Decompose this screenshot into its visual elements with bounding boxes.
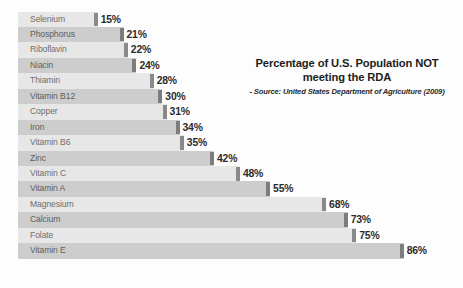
value-label: 55% xyxy=(273,181,293,196)
category-label: Vitamin E xyxy=(30,243,66,258)
bar xyxy=(18,228,356,243)
bar-end-cap xyxy=(344,213,348,227)
chart-row: Selenium15% xyxy=(0,12,463,27)
bar-end-cap xyxy=(150,74,154,88)
bar-end-cap xyxy=(158,90,162,104)
category-label: Phosphorus xyxy=(30,27,75,42)
bar-end-cap xyxy=(176,121,180,135)
chart-title-block: Percentage of U.S. Population NOT meetin… xyxy=(233,56,461,96)
category-label: Vitamin A xyxy=(30,181,65,196)
bar-end-cap xyxy=(322,198,326,212)
chart-row: Phosphorus21% xyxy=(0,27,463,42)
bar xyxy=(18,151,214,166)
value-label: 24% xyxy=(139,58,159,73)
category-label: Copper xyxy=(30,104,58,119)
chart-row: Magnesium68% xyxy=(0,197,463,212)
value-label: 86% xyxy=(407,243,427,258)
chart-row: Vitamin B635% xyxy=(0,135,463,150)
chart-row: Iron34% xyxy=(0,120,463,135)
category-label: Folate xyxy=(30,228,53,243)
category-label: Vitamin B12 xyxy=(30,89,75,104)
value-label: 68% xyxy=(329,197,349,212)
chart-row: Vitamin C48% xyxy=(0,166,463,181)
category-label: Riboflavin xyxy=(30,42,67,57)
bar-end-cap xyxy=(236,167,240,181)
bar-end-cap xyxy=(120,28,124,42)
category-label: Thiamin xyxy=(30,73,60,88)
value-label: 28% xyxy=(157,73,177,88)
chart-row: Calcium73% xyxy=(0,212,463,227)
bar-chart-plot-area: Selenium15%Phosphorus21%Riboflavin22%Nia… xyxy=(0,0,463,288)
chart-row: Vitamin E86% xyxy=(0,243,463,258)
category-label: Zinc xyxy=(30,151,46,166)
bar xyxy=(18,243,404,258)
category-label: Vitamin B6 xyxy=(30,135,70,150)
value-label: 75% xyxy=(359,228,379,243)
chart-row: Copper31% xyxy=(0,104,463,119)
bar-end-cap xyxy=(266,182,270,196)
bar-end-cap xyxy=(163,105,167,119)
chart-title: Percentage of U.S. Population NOT meetin… xyxy=(233,56,461,84)
chart-title-line-1: Percentage of U.S. Population NOT xyxy=(233,56,461,70)
category-label: Selenium xyxy=(30,12,65,27)
value-label: 22% xyxy=(131,42,151,57)
value-label: 34% xyxy=(183,120,203,135)
bar-end-cap xyxy=(124,43,128,57)
bar-end-cap xyxy=(180,136,184,150)
value-label: 30% xyxy=(165,89,185,104)
category-label: Calcium xyxy=(30,212,60,227)
category-label: Magnesium xyxy=(30,197,74,212)
chart-title-line-2: meeting the RDA xyxy=(233,70,461,84)
chart-row: Zinc42% xyxy=(0,151,463,166)
category-label: Niacin xyxy=(30,58,53,73)
chart-row: Folate75% xyxy=(0,228,463,243)
value-label: 48% xyxy=(243,166,263,181)
category-label: Iron xyxy=(30,120,44,135)
bar-end-cap xyxy=(94,13,98,27)
value-label: 42% xyxy=(217,151,237,166)
chart-row: Vitamin A55% xyxy=(0,181,463,196)
value-label: 31% xyxy=(170,104,190,119)
value-label: 35% xyxy=(187,135,207,150)
bar xyxy=(18,212,348,227)
category-label: Vitamin C xyxy=(30,166,66,181)
chart-container: Selenium15%Phosphorus21%Riboflavin22%Nia… xyxy=(0,0,463,288)
value-label: 21% xyxy=(127,27,147,42)
bar-end-cap xyxy=(210,152,214,166)
bar-end-cap xyxy=(400,244,404,258)
value-label: 15% xyxy=(101,12,121,27)
value-label: 73% xyxy=(351,212,371,227)
bar-end-cap xyxy=(352,229,356,243)
chart-source-note: - Source: United States Department of Ag… xyxy=(233,87,461,96)
bar-end-cap xyxy=(132,59,136,73)
